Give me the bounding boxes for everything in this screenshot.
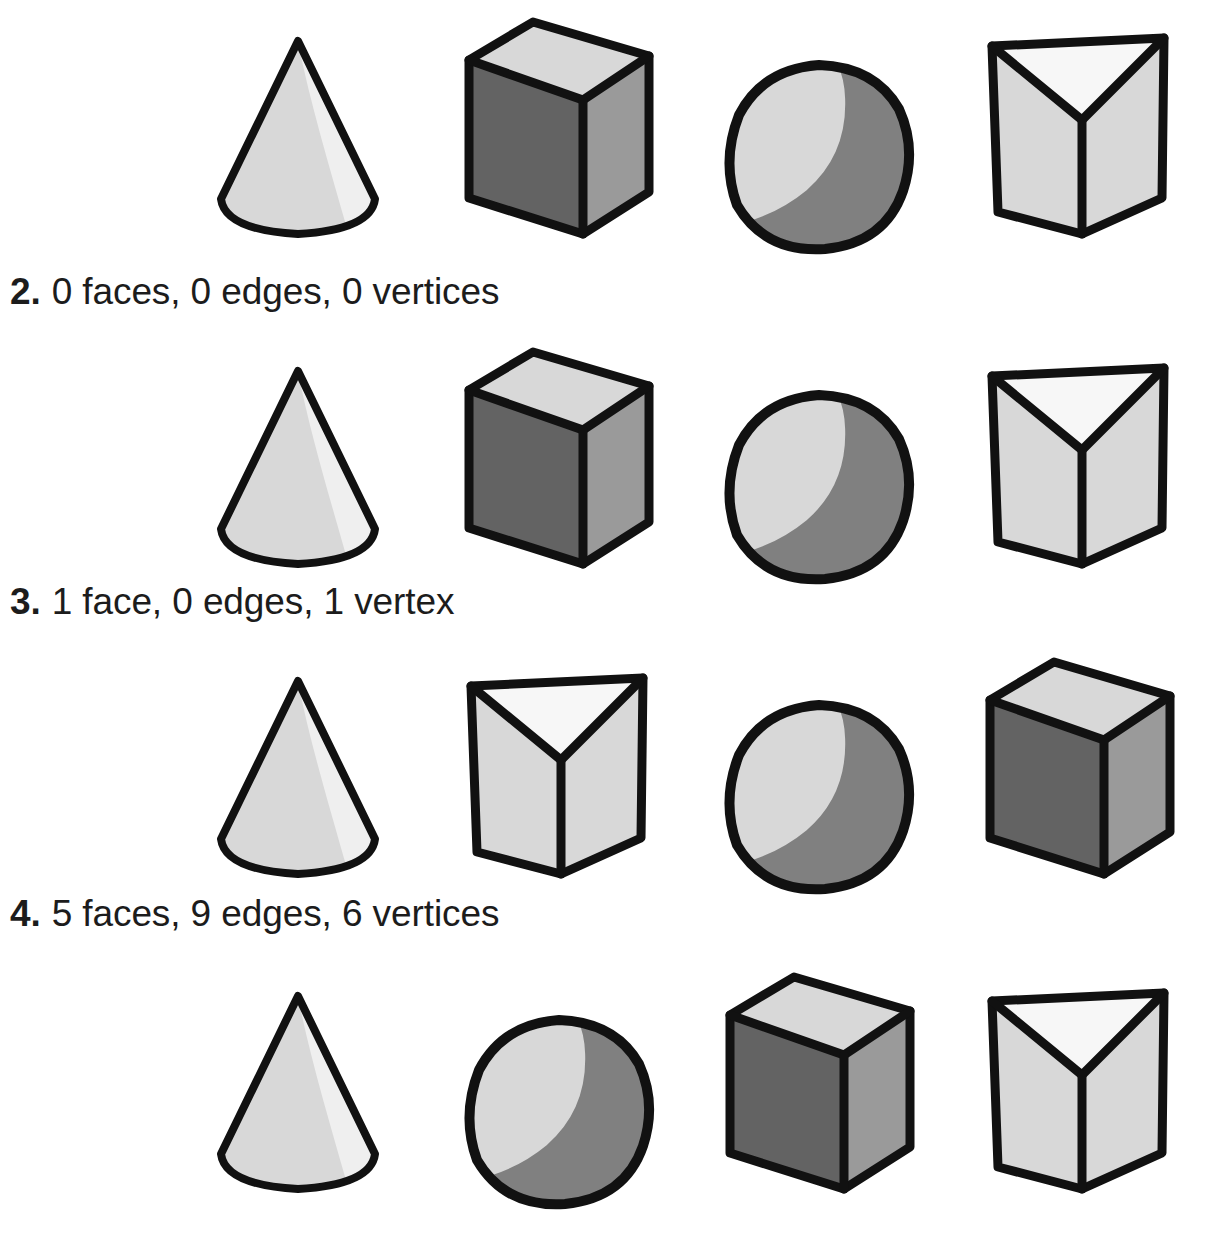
shape-row-1: [0, 0, 1210, 245]
rectangular-prism-graphic: [461, 346, 656, 571]
triangular-prism-graphic: [461, 656, 656, 881]
sphere-graphic: [719, 697, 919, 897]
sphere-graphic: [459, 1012, 659, 1212]
shape-sphere[interactable]: [689, 337, 950, 587]
shape-row-2: [0, 325, 1210, 575]
shape-cone[interactable]: [168, 327, 429, 577]
rectangular-prism-graphic: [982, 656, 1177, 881]
sphere-graphic: [719, 57, 919, 257]
sphere-graphic: [719, 387, 919, 587]
prompt-item-4: 4. 5 faces, 9 edges, 6 vertices: [10, 895, 499, 932]
rectangular-prism-graphic: [461, 16, 656, 241]
prompt-number: 3.: [10, 583, 41, 620]
shape-sphere[interactable]: [689, 647, 950, 897]
shape-row-4: [0, 950, 1210, 1200]
triangular-prism-graphic: [982, 16, 1177, 241]
shape-triangular-prism[interactable]: [429, 631, 690, 881]
worksheet-page: 2. 0 faces, 0 edges, 0 vertices: [0, 0, 1210, 1235]
cone-graphic: [198, 362, 398, 577]
shape-sphere[interactable]: [689, 7, 950, 257]
shape-row-3: [0, 635, 1210, 885]
shape-cone[interactable]: [168, 952, 429, 1202]
prompt-item-3: 3. 1 face, 0 edges, 1 vertex: [10, 583, 454, 620]
shape-rectangular-prism[interactable]: [429, 321, 690, 571]
triangular-prism-graphic: [982, 346, 1177, 571]
cone-graphic: [198, 987, 398, 1202]
prompt-text: 5 faces, 9 edges, 6 vertices: [52, 895, 500, 932]
cone-graphic: [198, 32, 398, 247]
shape-triangular-prism[interactable]: [950, 0, 1210, 241]
prompt-number: 4.: [10, 895, 41, 932]
shape-rectangular-prism[interactable]: [429, 0, 690, 241]
prompt-number: 2.: [10, 273, 41, 310]
shape-rectangular-prism[interactable]: [950, 631, 1210, 881]
shape-sphere[interactable]: [429, 962, 690, 1212]
shape-triangular-prism[interactable]: [950, 321, 1210, 571]
prompt-item-2: 2. 0 faces, 0 edges, 0 vertices: [10, 273, 499, 310]
prompt-text: 0 faces, 0 edges, 0 vertices: [52, 273, 500, 310]
shape-rectangular-prism[interactable]: [689, 946, 950, 1196]
prompt-text: 1 face, 0 edges, 1 vertex: [52, 583, 455, 620]
shape-cone[interactable]: [168, 637, 429, 887]
rectangular-prism-graphic: [722, 971, 917, 1196]
triangular-prism-graphic: [982, 971, 1177, 1196]
cone-graphic: [198, 672, 398, 887]
shape-triangular-prism[interactable]: [950, 946, 1210, 1196]
shape-cone[interactable]: [168, 0, 429, 247]
